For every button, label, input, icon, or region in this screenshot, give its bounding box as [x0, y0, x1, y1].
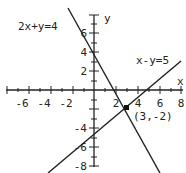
- intersection-point: [124, 105, 129, 110]
- y-tick-label: 4: [80, 46, 87, 59]
- x-tick-label: -2: [59, 97, 72, 110]
- y-tick-label: 6: [80, 27, 87, 40]
- x-axis-label: x: [177, 75, 184, 88]
- x-tick-label: -4: [37, 97, 51, 110]
- graph: -6 -4 -2 2 4 6 8 6 4 2 -4 -6 -8 y x 2x+y…: [0, 0, 186, 173]
- y-axis-label: y: [104, 12, 111, 25]
- x-tick-label: -6: [15, 97, 28, 110]
- y-tick-label: -4: [74, 122, 88, 135]
- y-tick-label: -8: [74, 160, 87, 173]
- equation-label-2: x-y=5: [136, 54, 169, 67]
- x-tick-label: 6: [157, 97, 164, 110]
- x-tick-label: 8: [178, 97, 185, 110]
- intersection-label: (3,-2): [133, 110, 173, 123]
- y-tick-label: 2: [80, 65, 87, 78]
- equation-label-1: 2x+y=4: [18, 20, 58, 33]
- y-tick-label: -6: [74, 141, 87, 154]
